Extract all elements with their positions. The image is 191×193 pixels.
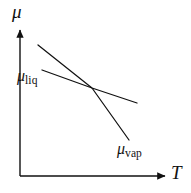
curve-label-mu-liq-subscript: liq — [25, 74, 37, 86]
chemical-potential-figure: μ T μliq μvap — [0, 0, 191, 193]
curve-label-mu-vap: μvap — [117, 141, 142, 159]
y-axis-label: μ — [12, 2, 22, 21]
curve-mu-vap — [38, 45, 129, 140]
chart-canvas — [0, 0, 191, 193]
curve-label-mu-liq: μliq — [17, 68, 38, 86]
axes-group — [20, 30, 165, 176]
curve-label-mu-liq-symbol: μ — [17, 67, 25, 84]
curves-group — [38, 45, 137, 140]
curve-label-mu-vap-symbol: μ — [117, 140, 125, 157]
x-axis-label: T — [171, 163, 182, 182]
curve-label-mu-vap-subscript: vap — [125, 147, 142, 159]
